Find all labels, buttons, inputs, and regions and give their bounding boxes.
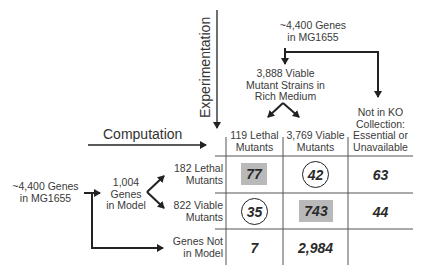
cell-lethal-viable: 42 bbox=[302, 161, 329, 188]
computation-label: Computation bbox=[103, 127, 182, 142]
column-header-viable: 3,769 Viable Mutants bbox=[283, 130, 348, 153]
cell-viable-viable: 743 bbox=[299, 200, 333, 222]
cell-lethal-lethal: 77 bbox=[241, 163, 267, 185]
fork-arrow-viable bbox=[283, 103, 299, 117]
cell-lethal-not-in-ko: 63 bbox=[348, 163, 413, 186]
row-label-viable: 822 Viable Mutants bbox=[168, 200, 223, 223]
top-genes-label: ~4,400 Genes in MG1655 bbox=[258, 20, 368, 43]
fork-arrow-lethal bbox=[268, 103, 283, 117]
column-header-lethal: 119 Lethal Mutants bbox=[226, 130, 283, 153]
cell-viable-lethal: 35 bbox=[241, 198, 268, 225]
row-label-not-in-model: Genes Not in Model bbox=[168, 236, 223, 259]
model-fork-arrow-lethal bbox=[147, 176, 164, 192]
viable-strains-label: 3,888 Viable Mutant Strains in Rich Medi… bbox=[238, 68, 333, 103]
left-genes-label: ~4,400 Genes in MG1655 bbox=[8, 181, 83, 204]
experimentation-label: Experimentation bbox=[197, 17, 213, 118]
cell-viable-not-in-ko: 44 bbox=[348, 200, 413, 223]
column-header-not-in-ko: Not in KO Collection: Essential or Unava… bbox=[348, 107, 413, 153]
model-fork-arrow-viable bbox=[147, 192, 164, 208]
cell-notinmodel-lethal: 7 bbox=[226, 236, 283, 259]
cell-notinmodel-viable: 2,984 bbox=[283, 236, 348, 259]
cell-notinmodel-not-in-ko bbox=[348, 236, 413, 259]
gene-essentiality-diagram: Experimentation Computation ~4,400 Genes… bbox=[0, 0, 427, 272]
genes-in-model-label: 1,004 Genes in Model bbox=[104, 177, 148, 212]
row-label-lethal: 182 Lethal Mutants bbox=[168, 163, 223, 186]
